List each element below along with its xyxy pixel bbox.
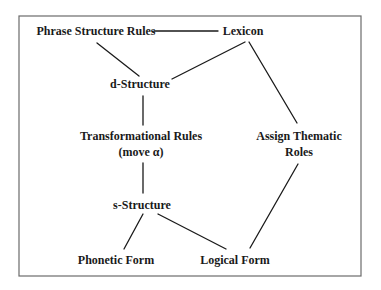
- node-label-line: Logical Form: [200, 253, 270, 267]
- node-label-line: Transformational Rules: [80, 129, 202, 143]
- node-label-line: s-Structure: [113, 198, 171, 212]
- node-lexicon: Lexicon: [223, 24, 264, 38]
- node-d-structure: d-Structure: [110, 77, 170, 91]
- node-logical-form: Logical Form: [200, 253, 270, 267]
- node-phonetic-form: Phonetic Form: [78, 253, 154, 267]
- syntax-model-diagram: Phrase Structure RulesLexicond-Structure…: [0, 0, 381, 290]
- node-label-line: Phrase Structure Rules: [36, 24, 155, 38]
- edge-lexicon-to-assign-thematic-roles: [249, 42, 297, 123]
- edge-phrase-structure-rules-to-d-structure: [97, 43, 139, 76]
- node-label-line: (move α): [118, 145, 163, 159]
- edge-assign-thematic-roles-to-logical-form: [250, 164, 298, 248]
- edge-lexicon-to-d-structure: [172, 42, 245, 79]
- node-label-line: Lexicon: [223, 24, 264, 38]
- edge-s-structure-to-logical-form: [158, 214, 226, 249]
- node-label-line: Phonetic Form: [78, 253, 154, 267]
- node-label-line: Roles: [285, 145, 313, 159]
- edge-s-structure-to-phonetic-form: [124, 214, 143, 249]
- node-assign-thematic-roles: Assign ThematicRoles: [256, 129, 342, 159]
- node-s-structure: s-Structure: [113, 198, 171, 212]
- node-label-line: Assign Thematic: [256, 129, 342, 143]
- node-phrase-structure-rules: Phrase Structure Rules: [36, 24, 155, 38]
- node-label-line: d-Structure: [110, 77, 170, 91]
- node-transformational-rules: Transformational Rules(move α): [80, 129, 202, 159]
